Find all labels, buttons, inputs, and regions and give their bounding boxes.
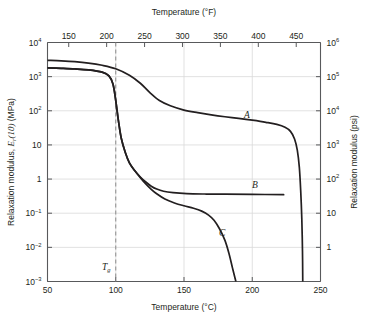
xtick-label-top: 400 [251, 31, 265, 41]
top-axis-title: Temperature (°F) [152, 7, 217, 17]
xtick-label-bottom: 50 [43, 285, 53, 295]
chart-figure: 5010015020025015020025030035040045010410… [0, 0, 369, 323]
xtick-label-bottom: 100 [109, 285, 123, 295]
xtick-label-bottom: 150 [177, 285, 191, 295]
svg-text:Relaxation modulus, Er(10) (MP: Relaxation modulus, Er(10) (MPa) [6, 98, 17, 226]
ytick-label: 10 [32, 140, 42, 150]
xtick-label-bottom: 200 [245, 285, 259, 295]
curve-label-a: A [243, 110, 250, 120]
xtick-label-bottom: 250 [313, 285, 327, 295]
xtick-label-top: 200 [100, 31, 114, 41]
chart-background [0, 0, 369, 323]
curve-label-b: B [252, 180, 258, 190]
right-axis-title: Relaxation modulus (psi) [349, 115, 359, 209]
xtick-label-top: 150 [62, 31, 76, 41]
ytick-label: 1 [37, 174, 42, 184]
ytick-label: 10 [327, 208, 337, 218]
xtick-label-top: 250 [137, 31, 151, 41]
left-axis-title: Relaxation modulus, Er(10) (MPa) [6, 98, 17, 226]
relaxation-modulus-chart: 5010015020025015020025030035040045010410… [0, 0, 369, 323]
xtick-label-top: 450 [289, 31, 303, 41]
xtick-label-top: 350 [213, 31, 227, 41]
curve-label-c: C [219, 228, 226, 238]
bottom-axis-title: Temperature (°C) [151, 302, 216, 312]
xtick-label-top: 300 [175, 31, 189, 41]
ytick-label: 1 [327, 242, 332, 252]
